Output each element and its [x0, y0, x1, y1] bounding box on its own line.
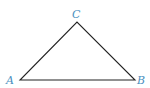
- vertex-label-a: A: [5, 74, 14, 87]
- vertex-label-b: B: [136, 74, 145, 87]
- triangle-abc: [20, 22, 135, 80]
- vertex-label-c: C: [72, 8, 81, 21]
- triangle-diagram: A B C: [0, 0, 150, 88]
